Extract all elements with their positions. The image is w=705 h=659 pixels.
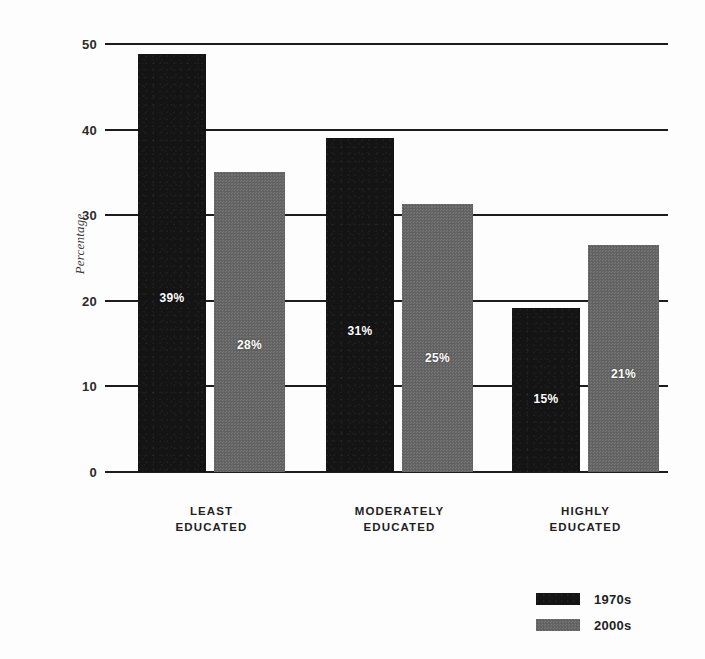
y-axis-tick-label: 40 xyxy=(67,122,97,137)
y-axis-tick-label: 50 xyxy=(67,37,97,52)
legend-swatch xyxy=(536,593,580,605)
y-axis-label: Percentage xyxy=(72,184,88,304)
legend-item-2000s[interactable]: 2000s xyxy=(536,614,632,636)
bar-chart-figure: Percentage 01020304050 39%28%31%25%15%21… xyxy=(0,0,705,659)
legend-swatch xyxy=(536,619,580,631)
bar-2000s-2: 21% xyxy=(588,245,659,472)
bar-2000s-1: 25% xyxy=(402,204,473,472)
y-axis-tick-label: 10 xyxy=(67,379,97,394)
bar-value-label: 28% xyxy=(214,338,285,352)
bar-value-label: 39% xyxy=(138,291,206,305)
category-label-2: HIGHLYEDUCATED xyxy=(472,503,699,535)
y-axis-tick-label: 30 xyxy=(67,208,97,223)
bar-1970s-2: 15% xyxy=(512,308,580,472)
category-label-line: HIGHLY xyxy=(472,503,699,519)
category-label-line: EDUCATED xyxy=(472,519,699,535)
bar-1970s-0: 39% xyxy=(138,54,206,472)
legend-label: 2000s xyxy=(594,618,632,633)
y-axis-tick-label: 0 xyxy=(67,465,97,480)
bar-2000s-0: 28% xyxy=(214,172,285,472)
bar-value-label: 21% xyxy=(588,367,659,381)
chart-legend: 1970s2000s xyxy=(536,588,632,640)
y-axis-tick-label: 20 xyxy=(67,293,97,308)
plot-area: 01020304050 39%28%31%25%15%21% xyxy=(105,44,668,472)
legend-label: 1970s xyxy=(594,592,632,607)
gridline xyxy=(105,43,668,45)
bar-1970s-1: 31% xyxy=(326,138,394,472)
bar-value-label: 25% xyxy=(402,351,473,365)
legend-item-1970s[interactable]: 1970s xyxy=(536,588,632,610)
bar-value-label: 15% xyxy=(512,392,580,406)
bar-value-label: 31% xyxy=(326,324,394,338)
